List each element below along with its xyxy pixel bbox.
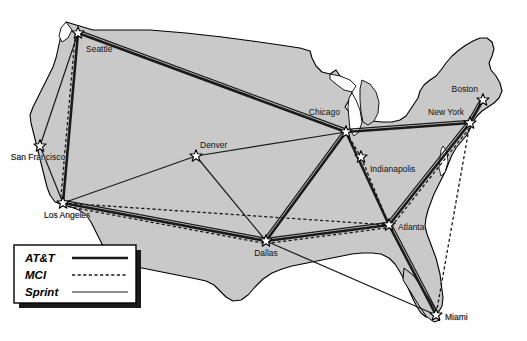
city-label-miami: Miami (445, 312, 468, 322)
city-label-seattle: Seattle (86, 44, 113, 54)
city-label-atlanta: Atlanta (398, 222, 425, 232)
city-label-denver: Denver (200, 140, 228, 150)
network-map-svg: SeattleSan FranciscoLos AngelesDenverDal… (0, 0, 527, 341)
map-root: SeattleSan FranciscoLos AngelesDenverDal… (0, 0, 527, 341)
city-label-dallas: Dallas (254, 248, 278, 258)
legend-label-att: AT&T (24, 252, 56, 264)
city-label-los_angeles: Los Angeles (44, 210, 90, 220)
city-label-san_francisco: San Francisco (11, 152, 66, 162)
city-label-indianapolis: Indianapolis (370, 164, 415, 174)
legend-label-sprint: Sprint (25, 286, 59, 298)
city-label-chicago: Chicago (309, 107, 340, 117)
city-label-boston: Boston (452, 84, 479, 94)
city-label-new_york: New York (428, 107, 465, 117)
legend-label-mci: MCI (25, 269, 47, 281)
carrier-legend[interactable]: AT&TMCISprint (14, 245, 141, 308)
